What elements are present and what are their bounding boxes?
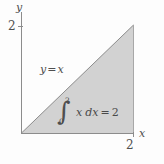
y-axis-tick-mark-2 [18, 26, 23, 27]
x-axis-tick-mark-2 [133, 132, 134, 137]
integral-sign-group: ∫ 2 0 [56, 99, 71, 125]
x-axis-tick-label-2: 2 [126, 139, 134, 151]
integral-area-figure: y x 2 2 y=x ∫ 2 0 xdx=2 [0, 0, 164, 164]
integral-equals-operator: = [98, 106, 111, 119]
integral-upper-limit: 2 [65, 97, 70, 105]
x-axis-line [21, 133, 134, 134]
integrand-differential: dx [82, 106, 98, 119]
y-axis-line [21, 12, 22, 134]
integral-result-value: 2 [112, 106, 119, 119]
integral-expression: ∫ 2 0 xdx=2 [56, 99, 119, 125]
integrand-and-result: xdx=2 [76, 106, 119, 119]
line-equation-operator: = [46, 63, 57, 76]
integral-lower-limit: 0 [59, 118, 64, 126]
x-axis-label: x [139, 128, 145, 139]
line-equation-rhs: x [57, 63, 63, 76]
y-axis-tick-label-2: 2 [8, 20, 16, 32]
line-equation-label: y=x [40, 64, 64, 75]
y-axis-label: y [16, 2, 22, 13]
